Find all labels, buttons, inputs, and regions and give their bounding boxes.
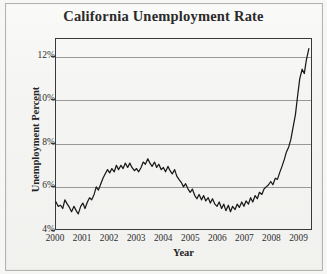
x-axis-tick-labels: 2000200120022003200420052006200720082009: [55, 233, 312, 247]
y-tick-mark-4%: [51, 230, 55, 231]
x-tick-label-2009: 2009: [282, 233, 316, 243]
y-axis-label: Unemployment Percent: [30, 65, 41, 215]
x-axis-label: Year: [55, 247, 312, 258]
plot-area: [55, 38, 312, 230]
y-axis-label-host: Unemployment Percent: [14, 38, 34, 230]
series-line-unemployment-percent: [56, 39, 311, 229]
chart-title: California Unemployment Rate: [0, 8, 327, 25]
screenshot-root: California Unemployment Rate 4%6%8%10%12…: [0, 0, 327, 274]
